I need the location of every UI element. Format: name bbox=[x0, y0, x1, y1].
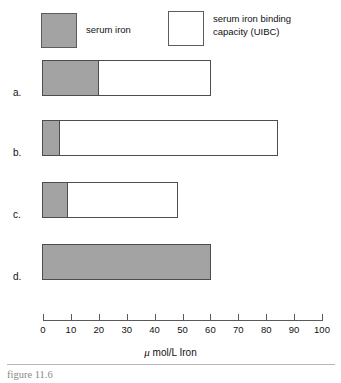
bar-segment-uibc bbox=[99, 61, 211, 95]
x-axis-tick bbox=[127, 314, 128, 321]
x-axis-tick bbox=[183, 314, 184, 321]
bar-row-label: c. bbox=[13, 209, 21, 220]
bar-row: c. bbox=[0, 182, 341, 218]
x-axis-tick-label: 40 bbox=[149, 324, 160, 335]
x-axis-tick bbox=[322, 314, 323, 321]
stacked-bar bbox=[42, 182, 178, 218]
figure-container: serum iron serum iron binding capacity (… bbox=[0, 0, 341, 383]
x-axis-tick-label: 90 bbox=[289, 324, 300, 335]
x-axis-tick bbox=[43, 314, 44, 321]
bar-segment-serum-iron bbox=[43, 183, 68, 217]
x-axis-tick bbox=[294, 314, 295, 321]
x-axis: 0102030405060708090100 bbox=[0, 312, 341, 346]
caption-divider bbox=[7, 364, 335, 365]
bar-row: a. bbox=[0, 60, 341, 96]
bar-row-label: a. bbox=[13, 87, 21, 98]
bar-row: d. bbox=[0, 244, 341, 280]
stacked-bar bbox=[42, 60, 211, 96]
bar-row: b. bbox=[0, 120, 341, 156]
x-axis-tick-label: 60 bbox=[205, 324, 216, 335]
x-axis-tick bbox=[210, 314, 211, 321]
legend-swatch-serum-iron bbox=[41, 13, 77, 48]
x-axis-tick-label: 10 bbox=[66, 324, 77, 335]
chart-legend: serum iron serum iron binding capacity (… bbox=[0, 0, 341, 56]
legend-label-serum-iron: serum iron bbox=[86, 13, 131, 37]
x-axis-tick-label: 70 bbox=[233, 324, 244, 335]
figure-caption: figure 11.6 bbox=[7, 369, 53, 380]
bar-segment-serum-iron bbox=[43, 61, 99, 95]
x-axis-tick-label: 50 bbox=[177, 324, 188, 335]
x-axis-tick bbox=[238, 314, 239, 321]
x-axis-tick bbox=[155, 314, 156, 321]
bar-row-label: d. bbox=[13, 271, 21, 282]
x-axis-tick-label: 0 bbox=[40, 324, 45, 335]
x-axis-tick bbox=[71, 314, 72, 321]
x-axis-title: μ mol/L Iron bbox=[0, 346, 341, 358]
x-axis-tick bbox=[99, 314, 100, 321]
bar-segment-uibc bbox=[60, 121, 278, 155]
bar-row-label: b. bbox=[13, 147, 21, 158]
bar-segment-serum-iron bbox=[43, 121, 60, 155]
bar-segment-serum-iron bbox=[43, 245, 210, 279]
stacked-bar bbox=[42, 244, 211, 280]
x-axis-tick-label: 20 bbox=[94, 324, 105, 335]
legend-item-uibc: serum iron binding capacity (UIBC) bbox=[168, 11, 291, 46]
legend-item-serum-iron: serum iron bbox=[41, 13, 131, 48]
x-axis-tick-label: 100 bbox=[314, 324, 330, 335]
legend-swatch-uibc bbox=[168, 11, 204, 46]
mu-symbol: μ bbox=[144, 346, 150, 358]
bar-segment-uibc bbox=[68, 183, 177, 217]
x-axis-tick bbox=[266, 314, 267, 321]
x-axis-tick-label: 30 bbox=[121, 324, 132, 335]
legend-label-uibc: serum iron binding capacity (UIBC) bbox=[213, 11, 291, 38]
x-axis-tick-label: 80 bbox=[261, 324, 272, 335]
bar-chart-plot-area: a.b.c.d. bbox=[0, 56, 341, 308]
stacked-bar bbox=[42, 120, 278, 156]
